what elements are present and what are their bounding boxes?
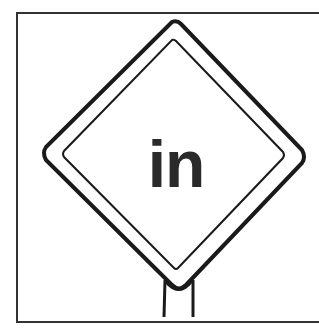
sign-text: in	[0, 126, 319, 202]
